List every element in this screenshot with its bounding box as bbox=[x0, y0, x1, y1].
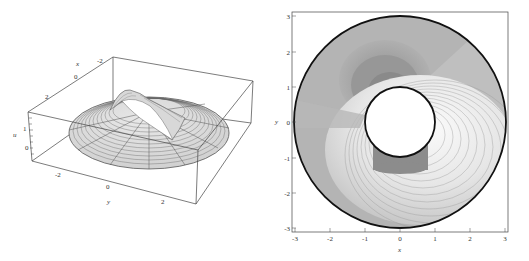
surface-mesh bbox=[69, 90, 229, 169]
contour-plot: -3 -2 -1 0 1 2 3 3 2 1 0 -1 -2 -3 x y bbox=[265, 0, 529, 261]
y-axis-label: y bbox=[106, 198, 111, 206]
x-axis-label: x bbox=[75, 60, 80, 68]
y-tick: 2 bbox=[161, 198, 165, 206]
x-tick: 3 bbox=[503, 235, 507, 243]
y-tick: -2 bbox=[284, 190, 290, 198]
surface-plot-canvas: x -2 0 2 u 1 0 -2 0 y 2 bbox=[0, 0, 265, 261]
x-tick: 0 bbox=[398, 235, 402, 243]
contour-plot-canvas: -3 -2 -1 0 1 2 3 3 2 1 0 -1 -2 -3 x y bbox=[265, 0, 529, 261]
x-tick: -1 bbox=[362, 235, 368, 243]
x-tick: -3 bbox=[292, 235, 298, 243]
y-tick: -2 bbox=[55, 171, 61, 179]
surface-plot-3d: x -2 0 2 u 1 0 -2 0 y 2 bbox=[0, 0, 265, 261]
y-tick: 1 bbox=[287, 84, 291, 92]
x-tick: 2 bbox=[45, 93, 49, 101]
y-tick: 0 bbox=[106, 183, 110, 191]
x-tick-labels: -3 -2 -1 0 1 2 3 bbox=[292, 235, 507, 243]
y-tick: 0 bbox=[287, 119, 291, 127]
y-tick: 3 bbox=[287, 13, 291, 21]
u-tick: 0 bbox=[25, 144, 29, 152]
y-tick-labels: 3 2 1 0 -1 -2 -3 bbox=[284, 13, 290, 233]
x-tick: 0 bbox=[74, 73, 78, 81]
y-tick: -1 bbox=[284, 155, 290, 163]
y-axis-label: y bbox=[274, 118, 279, 126]
x-tick: 2 bbox=[468, 235, 472, 243]
x-tick: 1 bbox=[433, 235, 437, 243]
u-tick: 1 bbox=[23, 125, 27, 133]
y-tick: 2 bbox=[287, 49, 291, 57]
inner-boundary bbox=[365, 87, 435, 157]
y-tick: -3 bbox=[284, 225, 290, 233]
x-tick: -2 bbox=[327, 235, 333, 243]
u-axis-label: u bbox=[13, 131, 17, 139]
x-tick: -2 bbox=[97, 57, 103, 65]
x-axis-label: x bbox=[397, 246, 402, 254]
